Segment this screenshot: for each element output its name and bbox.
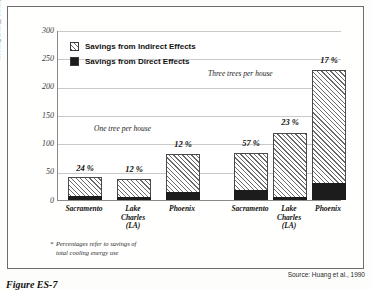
bar-segment-direct [234,190,268,200]
bar-segment-direct [312,183,346,200]
x-label-line1: Phoenix [155,205,209,214]
legend-label-direct: Savings from Direct Effects [85,57,189,66]
x-label-phoenix-3trees: Phoenix [301,205,355,214]
bar-phoenix-1tree[interactable] [166,154,200,201]
solid-swatch-icon [70,57,79,66]
footnote-line-1: Percentages refer to savings of [56,240,236,249]
data-label-sacramento-1tree: 24 % [62,163,108,173]
bar-phoenix-3trees[interactable] [312,70,346,200]
legend-item-indirect[interactable]: Savings from Indirect Effects [70,41,196,51]
hatched-swatch-icon [70,42,79,51]
data-label-lakecharles-3trees: 23 % [267,117,313,127]
y-tick-200: 200 [28,83,54,91]
data-label-phoenix-1tree: 12 % [160,139,206,149]
x-label-lakecharles-1tree: Lake Charles (LA) [106,205,160,231]
footnote: * Percentages refer to savings of total … [56,240,236,257]
x-label-line3: (LA) [106,222,160,231]
figure-root: Cooling Energy Savings (dollars/year) 30… [0,0,372,290]
legend-label-indirect: Savings from Indirect Effects [85,42,196,51]
y-axis-title: Cooling Energy Savings (dollars/year) [0,0,1,60]
group-note-three-trees: Three trees per house [208,69,273,78]
bar-sacramento-3trees[interactable] [234,153,268,200]
y-tick-50: 50 [28,168,54,176]
y-tick-100: 100 [28,140,54,148]
legend-item-direct[interactable]: Savings from Direct Effects [70,56,196,66]
x-label-line3: (LA) [262,222,316,231]
gridline-300 [58,31,341,32]
bar-segment-indirect [273,133,307,200]
footnote-line-2: total cooling energy use [56,249,236,258]
y-tick-250: 250 [28,55,54,63]
y-tick-300: 300 [28,27,54,35]
data-label-phoenix-3trees: 17 % [306,55,352,65]
bar-lakecharles-3trees[interactable] [273,133,307,200]
bar-segment-direct [166,192,200,200]
x-label-line1: Sacramento [57,205,111,214]
chart-legend: Savings from Indirect Effects Savings fr… [70,41,196,71]
group-note-one-tree: One tree per house [94,124,151,133]
x-label-line1: Phoenix [301,205,355,214]
data-label-sacramento-3trees: 57 % [228,138,274,148]
x-label-sacramento-1tree: Sacramento [57,205,111,214]
bar-segment-indirect [312,70,346,200]
x-label-phoenix-1tree: Phoenix [155,205,209,214]
bar-segment-direct [68,196,102,201]
y-tick-150: 150 [28,112,54,120]
y-tick-0: 0 [28,197,54,205]
source-credit: Source: Huang et al., 1990 [288,271,365,278]
figure-caption: Figure ES-7 [6,279,57,290]
footnote-marker: * [50,240,53,249]
bar-segment-direct [117,197,151,200]
bar-lakecharles-1tree[interactable] [117,179,151,200]
gridline-200 [58,88,341,89]
bar-segment-direct [273,197,307,200]
bar-sacramento-1tree[interactable] [68,177,102,200]
data-label-lakecharles-1tree: 12 % [111,164,157,174]
